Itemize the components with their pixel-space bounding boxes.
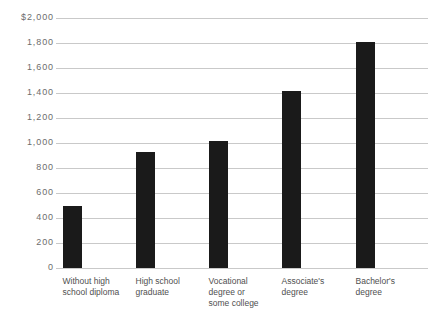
plot-area: 02004006008001,0001,2001,4001,6001,800$2… <box>0 0 445 323</box>
bar <box>282 91 301 269</box>
y-axis-tick-label: 200 <box>0 237 54 247</box>
x-axis-category-label: Vocational degree or some college <box>209 276 281 309</box>
x-axis-category-label: High school graduate <box>136 276 208 298</box>
y-axis-tick-label: 0 <box>0 262 54 272</box>
y-axis-tick-label: 1,400 <box>0 87 54 97</box>
bar <box>136 152 155 268</box>
bar <box>209 141 228 268</box>
y-axis-tick-label: 1,200 <box>0 112 54 122</box>
x-axis-category-label: Bachelor's degree <box>356 276 428 298</box>
y-axis-tick-label: 600 <box>0 187 54 197</box>
y-axis-tick-label: $2,000 <box>0 12 54 22</box>
y-axis-tick-label: 1,000 <box>0 137 54 147</box>
bar-chart: 02004006008001,0001,2001,4001,6001,800$2… <box>0 0 445 323</box>
bar <box>356 42 375 268</box>
x-axis-category-label: Associate's degree <box>282 276 354 298</box>
bar <box>63 206 82 269</box>
gridline <box>56 18 428 19</box>
x-axis-category-label: Without high school diploma <box>63 276 135 298</box>
gridline <box>56 268 428 269</box>
y-axis-tick-label: 400 <box>0 212 54 222</box>
y-axis-tick-label: 1,600 <box>0 62 54 72</box>
y-axis-tick-label: 800 <box>0 162 54 172</box>
y-axis-tick-label: 1,800 <box>0 37 54 47</box>
